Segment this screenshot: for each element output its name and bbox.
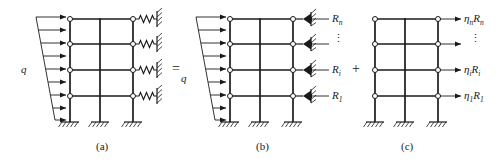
panel-c-hinges xyxy=(373,17,441,99)
reaction-base-n: R xyxy=(332,12,339,24)
panel-b-load-label: q xyxy=(181,73,187,84)
panel-a-load-label: q xyxy=(21,64,27,75)
panel-b-distributed-load xyxy=(196,17,226,120)
plus-operator: + xyxy=(352,61,360,77)
panel-c-force-label-i: ηiRi xyxy=(464,64,480,78)
panel-b-reaction-arrows xyxy=(306,19,329,96)
panel-b-reaction-label-n: Rn xyxy=(332,13,342,27)
panel-a-springs xyxy=(136,16,157,100)
panel-a-hinges xyxy=(68,17,136,99)
reaction-base-1: R xyxy=(332,89,339,101)
superposition-figure: q = q Rn ⋮ Ri R1 + ηnRn ⋮ ηiRi η1R1 (a) … xyxy=(0,0,499,163)
panel-a-wall-hatch xyxy=(157,8,162,103)
panel-b-beams xyxy=(230,19,293,96)
force-sub-n: n xyxy=(480,18,484,27)
force-base-1: R xyxy=(473,89,480,101)
panel-c-caption: (c) xyxy=(401,140,413,152)
panel-b-caption: (b) xyxy=(256,140,269,152)
panel-c-group xyxy=(364,17,462,128)
force-sub-i: i xyxy=(478,69,480,78)
panel-b-base-supports xyxy=(219,122,303,127)
panel-b-group xyxy=(196,9,329,127)
frame-diagram-svg xyxy=(0,0,499,163)
panel-b-reaction-label-i: Ri xyxy=(332,64,341,78)
panel-a-caption: (a) xyxy=(96,140,108,152)
panel-a-distributed-load xyxy=(36,17,66,120)
panel-c-vertical-dots: ⋮ xyxy=(470,37,480,40)
panel-b-reaction-label-1: R1 xyxy=(332,90,342,104)
reaction-sub-n: n xyxy=(339,18,343,27)
panel-b-link-supports xyxy=(296,9,316,103)
panel-a-beams xyxy=(70,19,133,96)
panel-b-hinges xyxy=(228,17,296,99)
panel-c-base-supports xyxy=(364,122,448,127)
reaction-sub-i: i xyxy=(339,69,341,78)
panel-b-vertical-dots: ⋮ xyxy=(333,37,343,40)
panel-c-force-label-1: η1R1 xyxy=(464,90,484,104)
panel-c-force-label-n: ηnRn xyxy=(464,13,484,27)
equals-operator: = xyxy=(172,61,180,77)
force-sub-1: 1 xyxy=(480,95,484,104)
panel-c-beams xyxy=(375,19,438,96)
force-base-n: R xyxy=(473,12,480,24)
panel-a-group xyxy=(36,8,162,127)
panel-a-base-supports xyxy=(59,122,143,127)
reaction-sub-1: 1 xyxy=(339,95,343,104)
panel-c-force-arrows xyxy=(440,19,461,96)
reaction-base-i: R xyxy=(332,63,339,75)
